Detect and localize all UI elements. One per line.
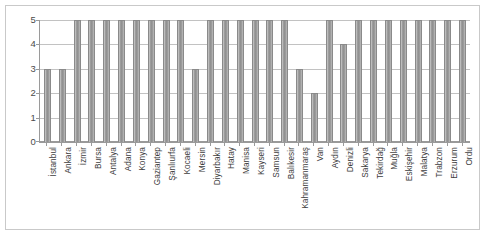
- x-axis-tick-mark: [135, 142, 136, 146]
- x-axis-tick-mark: [462, 142, 463, 146]
- plot-area: [39, 20, 470, 143]
- x-tick-slot: [143, 142, 158, 146]
- bar-slot: [322, 20, 337, 142]
- bar-slot: [455, 20, 470, 142]
- x-tick-slot: [69, 142, 84, 146]
- bar[interactable]: [163, 20, 170, 142]
- x-axis-tick-mark: [239, 142, 240, 146]
- x-axis-tick-mark: [447, 142, 448, 146]
- bar-slot: [248, 20, 263, 142]
- bar[interactable]: [296, 69, 303, 142]
- bar[interactable]: [459, 20, 466, 142]
- bar[interactable]: [237, 20, 244, 142]
- bar-slot: [70, 20, 85, 142]
- x-axis-tick-mark: [313, 142, 314, 146]
- bar[interactable]: [252, 20, 259, 142]
- x-axis-tick-mark: [328, 142, 329, 146]
- bar-slot: [351, 20, 366, 142]
- bar[interactable]: [74, 20, 81, 142]
- x-label-slot: Gaziantep: [143, 147, 158, 227]
- bar-slot: [262, 20, 277, 142]
- bar[interactable]: [444, 20, 451, 142]
- x-tick-slot: [83, 142, 98, 146]
- x-tick-slot: [217, 142, 232, 146]
- x-label-slot: Trabzon: [425, 147, 440, 227]
- x-axis-tick-mark: [343, 142, 344, 146]
- x-axis-tick-mark: [417, 142, 418, 146]
- bar-slot: [440, 20, 455, 142]
- x-tick-slot: [247, 142, 262, 146]
- bar[interactable]: [118, 20, 125, 142]
- x-label-slot: İzmir: [69, 147, 84, 227]
- bar[interactable]: [385, 20, 392, 142]
- bar[interactable]: [266, 20, 273, 142]
- x-label-slot: Antalya: [98, 147, 113, 227]
- bar-slot: [233, 20, 248, 142]
- x-axis-tick-mark: [373, 142, 374, 146]
- x-label-slot: Konya: [128, 147, 143, 227]
- x-tick-slot: [172, 142, 187, 146]
- bar-slot: [159, 20, 174, 142]
- bar[interactable]: [177, 20, 184, 142]
- x-tick-slot: [395, 142, 410, 146]
- x-axis-tick-mark: [195, 142, 196, 146]
- y-axis-tick-label: 2: [31, 88, 36, 98]
- x-tick-slot: [350, 142, 365, 146]
- x-axis-tick-mark: [284, 142, 285, 146]
- x-axis-tick-mark: [358, 142, 359, 146]
- x-tick-slot: [291, 142, 306, 146]
- x-label-slot: Denizli: [336, 147, 351, 227]
- bar[interactable]: [59, 69, 66, 142]
- bar[interactable]: [88, 20, 95, 142]
- bar-slot: [55, 20, 70, 142]
- x-label-slot: Samsun: [261, 147, 276, 227]
- x-label-slot: Manisa: [232, 147, 247, 227]
- x-label-slot: Hatay: [217, 147, 232, 227]
- bar[interactable]: [415, 20, 422, 142]
- bar-slot: [99, 20, 114, 142]
- x-tick-slot: [113, 142, 128, 146]
- x-axis-tick-mark: [76, 142, 77, 146]
- x-tick-slot: [39, 142, 54, 146]
- chart-plot-wrapper: 012345 İstanbulAnkaraİzmirBursaAntalyaAd…: [6, 6, 479, 229]
- x-tick-slot: [425, 142, 440, 146]
- bar-slot: [129, 20, 144, 142]
- x-axis-tick-marks: [39, 142, 469, 146]
- bar-slot: [114, 20, 129, 142]
- x-axis-tick-mark: [224, 142, 225, 146]
- bar[interactable]: [103, 20, 110, 142]
- bar[interactable]: [326, 20, 333, 142]
- bar-slot: [381, 20, 396, 142]
- x-tick-slot: [410, 142, 425, 146]
- bar[interactable]: [355, 20, 362, 142]
- bar[interactable]: [311, 93, 318, 142]
- x-tick-slot: [439, 142, 454, 146]
- x-tick-slot: [380, 142, 395, 146]
- bar[interactable]: [400, 20, 407, 142]
- bar[interactable]: [192, 69, 199, 142]
- bar-slot: [292, 20, 307, 142]
- x-axis-tick-mark: [91, 142, 92, 146]
- y-axis-tick-label: 0: [31, 137, 36, 147]
- bar[interactable]: [207, 20, 214, 142]
- x-label-slot: Adana: [113, 147, 128, 227]
- x-label-slot: Balıkesir: [276, 147, 291, 227]
- y-axis-tick-labels: 012345: [14, 20, 36, 142]
- bar-slot: [396, 20, 411, 142]
- bar[interactable]: [429, 20, 436, 142]
- bar[interactable]: [370, 20, 377, 142]
- bar[interactable]: [148, 20, 155, 142]
- x-label-slot: Erzurum: [439, 147, 454, 227]
- x-axis-tick-mark: [432, 142, 433, 146]
- x-label-slot: Tekirdağ: [365, 147, 380, 227]
- y-axis-tick-label: 1: [31, 113, 36, 123]
- bar[interactable]: [133, 20, 140, 142]
- bar[interactable]: [222, 20, 229, 142]
- x-axis-tick-mark: [61, 142, 62, 146]
- bar-slot: [40, 20, 55, 142]
- x-tick-slot: [276, 142, 291, 146]
- bar[interactable]: [44, 69, 51, 142]
- bar[interactable]: [281, 20, 288, 142]
- bar-slot: [277, 20, 292, 142]
- bar[interactable]: [340, 44, 347, 142]
